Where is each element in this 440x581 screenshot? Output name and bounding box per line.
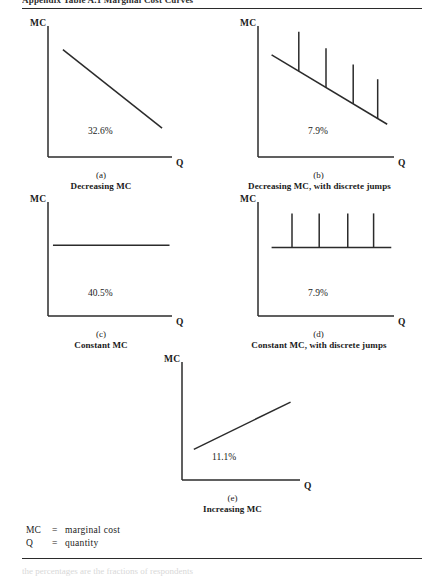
legend-text: quantity [65, 537, 99, 550]
page-header: Appendix Table A.1 Marginal Cost Curves [22, 0, 422, 6]
legend-equals: = [52, 537, 65, 550]
x-axis-label-d: Q [398, 317, 406, 327]
y-axis-label-c: MC [30, 194, 46, 204]
chart-panel-d: MC Q 7.9% (d) Constant MC, with discrete… [236, 196, 436, 346]
panel-caption-b: Decreasing MC, with discrete jumps [212, 181, 427, 191]
mc-curve-b [272, 55, 388, 124]
panel-letter-e: (e) [160, 493, 305, 503]
annotation-a: 32.6% [88, 126, 113, 136]
panel-caption-d: Constant MC, with discrete jumps [214, 340, 424, 350]
x-axis-label-c: Q [176, 317, 184, 327]
legend: MC = marginal cost Q = quantity [26, 524, 120, 550]
panel-letter-b: (b) [236, 170, 401, 180]
page-footer-faint: the percentages are the fractions of res… [22, 566, 422, 578]
y-axis-label-b: MC [240, 18, 256, 28]
discrete-jumps-b [299, 32, 378, 119]
panel-caption-e: Increasing MC [160, 504, 305, 514]
chart-plot-b [236, 18, 426, 168]
legend-equals: = [52, 524, 65, 537]
legend-text: marginal cost [65, 524, 120, 537]
chart-panel-e: MC Q 11.1% (e) Increasing MC [140, 352, 325, 512]
chart-plot-c [26, 196, 196, 326]
chart-plot-d [236, 196, 426, 326]
chart-panel-c: MC Q 40.5% (c) Constant MC [26, 196, 196, 346]
mc-curve-e [194, 402, 291, 449]
discrete-jumps-d [292, 213, 374, 247]
chart-plot-e [140, 352, 325, 492]
x-axis-label-e: Q [304, 481, 312, 491]
chart-plot-a [26, 18, 196, 168]
legend-symbol: MC [26, 524, 52, 537]
legend-row: MC = marginal cost [26, 524, 120, 537]
x-axis-label-b: Q [398, 158, 406, 168]
y-axis-label-e: MC [164, 354, 180, 364]
legend-symbol: Q [26, 537, 52, 550]
annotation-b: 7.9% [308, 126, 328, 136]
panel-letter-d: (d) [236, 329, 401, 339]
panel-caption-a: Decreasing MC [26, 181, 176, 191]
page-rule-top [22, 8, 422, 9]
page-rule-bottom [22, 558, 422, 559]
y-axis-label-d: MC [240, 194, 256, 204]
legend-row: Q = quantity [26, 537, 120, 550]
y-axis-label-a: MC [30, 18, 46, 28]
panel-letter-a: (a) [26, 170, 176, 180]
annotation-c: 40.5% [88, 288, 113, 298]
annotation-d: 7.9% [308, 288, 328, 298]
annotation-e: 11.1% [212, 452, 236, 462]
chart-panel-b: MC Q 7.9% (b) Decreasing MC, with discre… [236, 18, 436, 190]
chart-panel-a: MC Q 32.6% (a) Decreasing MC [26, 18, 196, 190]
panel-letter-c: (c) [26, 329, 176, 339]
panel-caption-c: Constant MC [26, 340, 176, 350]
x-axis-label-a: Q [176, 158, 184, 168]
mc-curve-a [63, 50, 162, 129]
